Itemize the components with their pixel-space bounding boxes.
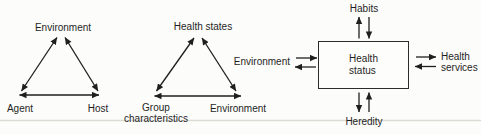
label-group-line1: Group <box>142 102 170 113</box>
label-heredity: Heredity <box>345 116 382 127</box>
double-arrow-environment-agent <box>22 38 58 92</box>
label-environment-triangle1: Environment <box>35 22 91 33</box>
label-health-status: Health status <box>349 53 378 77</box>
label-health-services-line1: Health <box>441 51 470 62</box>
label-habits: Habits <box>350 3 378 14</box>
label-environment-boxmodel: Environment <box>234 56 290 67</box>
double-arrow-healthstates-group <box>157 38 195 91</box>
double-arrow-environment-host <box>65 38 98 92</box>
double-arrow-healthstates-environment <box>202 38 236 91</box>
label-environment-triangle2: Environment <box>210 103 266 114</box>
label-group-line2: characteristics <box>124 113 188 124</box>
label-host: Host <box>88 103 109 114</box>
label-health-services: Health services <box>441 51 478 73</box>
label-health-status-line2: status <box>349 65 376 76</box>
label-health-states: Health states <box>174 21 232 32</box>
label-group-characteristics: Group characteristics <box>124 102 188 124</box>
label-health-status-line1: Health <box>349 53 378 64</box>
label-health-services-line2: services <box>441 62 478 73</box>
figure-canvas: Environment Agent Host Health states Gro… <box>0 0 481 134</box>
health-status-box: Health status <box>318 41 409 89</box>
label-agent: Agent <box>7 103 33 114</box>
